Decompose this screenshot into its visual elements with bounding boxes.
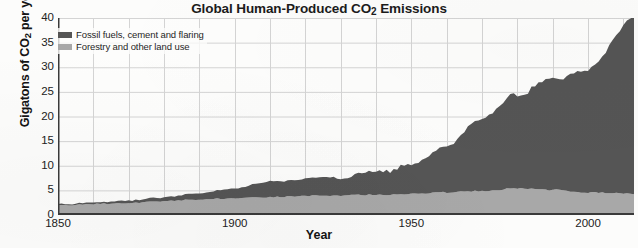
legend-label: Forestry and other land use	[76, 41, 189, 52]
legend-item-1[interactable]: Fossil fuels, cement and flaring	[58, 29, 204, 40]
legend-swatch-icon	[58, 44, 72, 50]
chart-title: Global Human-Produced CO2 Emissions	[0, 1, 638, 16]
x-axis-label: Year	[0, 228, 638, 242]
legend-item-2[interactable]: Forestry and other land use	[58, 41, 204, 52]
y-axis-tick-35: 35	[4, 37, 54, 49]
legend-label: Fossil fuels, cement and flaring	[76, 29, 204, 40]
y-axis-tick-15: 15	[4, 135, 54, 147]
y-axis-tick-30: 30	[4, 61, 54, 73]
y-axis-tick-40: 40	[4, 12, 54, 24]
chart-title-subscript: 2	[371, 6, 376, 17]
x-axis-tick-1950: 1950	[381, 218, 441, 230]
legend: Fossil fuels, cement and flaringForestry…	[57, 28, 207, 54]
y-axis-tick-10: 10	[4, 160, 54, 172]
y-axis-tick-5: 5	[4, 184, 54, 196]
chart-title-after: Emissions	[377, 1, 447, 16]
x-axis-tick-1850: 1850	[28, 218, 88, 230]
x-axis-tick-1900: 1900	[205, 218, 265, 230]
chart-title-before: Global Human-Produced CO	[191, 1, 371, 16]
y-axis-tick-20: 20	[4, 111, 54, 123]
y-axis-tick-25: 25	[4, 86, 54, 98]
legend-swatch-icon	[58, 32, 72, 38]
chart-figure: Global Human-Produced CO2 Emissions Giga…	[0, 0, 638, 248]
x-axis-tick-2000: 2000	[558, 218, 618, 230]
